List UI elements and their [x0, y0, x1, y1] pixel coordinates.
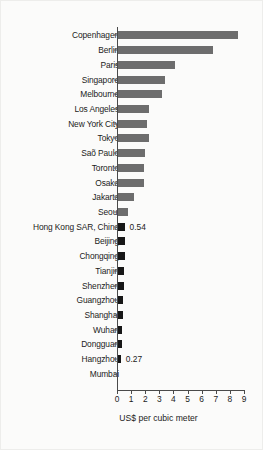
bar-value-label: 0.27 — [126, 355, 142, 363]
bar-row: Melbourne — [1, 87, 263, 102]
bar-row: Toronto — [1, 160, 263, 175]
bar-row: Dongguan — [1, 337, 263, 352]
chart-figure: CopenhagenBerlinParisSingaporeMelbourneL… — [0, 0, 263, 450]
bar — [118, 355, 122, 363]
bar — [118, 164, 145, 172]
bar-row: Chongqing — [1, 249, 263, 264]
bar-row: Beijing — [1, 234, 263, 249]
bar — [118, 311, 123, 319]
bar-row: Hangzhou0.27 — [1, 352, 263, 367]
x-axis-line — [117, 390, 244, 391]
x-axis-tick-label: 6 — [199, 395, 204, 403]
bar-row: Saõ Paulo — [1, 146, 263, 161]
bar-row: Singapore — [1, 72, 263, 87]
bar — [118, 61, 176, 69]
bar — [118, 296, 123, 304]
category-label: Hong Kong SAR, China — [33, 223, 119, 231]
bar — [118, 223, 126, 231]
x-axis-tick-label: 4 — [171, 395, 176, 403]
bar-value-label: 0.54 — [130, 223, 146, 231]
x-axis-tick-label: 8 — [228, 395, 233, 403]
bar-row: Mumbai — [1, 367, 263, 382]
bar — [118, 193, 134, 201]
bar-row: Copenhagen — [1, 28, 263, 43]
bar — [118, 46, 214, 54]
x-axis-tick-label: 2 — [143, 395, 148, 403]
bar — [118, 179, 145, 187]
bar — [118, 31, 239, 39]
bar-row: Jakarta — [1, 190, 263, 205]
bar-row: Seoul — [1, 205, 263, 220]
bar — [118, 340, 123, 348]
bar-row: Berlin — [1, 43, 263, 58]
bar-row: Shenzhen — [1, 278, 263, 293]
category-label: Copenhagen — [72, 31, 119, 39]
bar — [118, 149, 146, 157]
bar-row: Guangzhou — [1, 293, 263, 308]
x-axis-tick-label: 0 — [115, 395, 120, 403]
category-label: New York City — [68, 119, 119, 127]
bar — [118, 208, 129, 216]
bar — [118, 134, 149, 142]
bar — [118, 282, 124, 290]
bar — [118, 76, 166, 84]
bar-row: Paris — [1, 57, 263, 72]
bar — [118, 267, 125, 275]
bar — [118, 90, 162, 98]
y-axis-line — [117, 27, 118, 390]
bar — [118, 105, 149, 113]
x-axis-tick-label: 1 — [129, 395, 134, 403]
bar-row: Osaka — [1, 175, 263, 190]
bar-row: New York City — [1, 116, 263, 131]
bar-row: Tianjin — [1, 264, 263, 279]
x-axis-tick-label: 3 — [157, 395, 162, 403]
bar-row: Shanghai — [1, 308, 263, 323]
x-axis-tick-label: 5 — [185, 395, 190, 403]
bar — [118, 326, 123, 334]
x-axis-title: US$ per cubic meter — [1, 414, 263, 423]
bar-row: Wuhan — [1, 322, 263, 337]
bar-row: Hong Kong SAR, China0.54 — [1, 219, 263, 234]
category-label: Guangzhou — [77, 296, 119, 304]
x-axis-tick-label: 9 — [242, 395, 247, 403]
category-label: Los Angeles — [74, 105, 119, 113]
x-axis-tick-label: 7 — [213, 395, 218, 403]
bar-row: Tokyo — [1, 131, 263, 146]
bar — [118, 237, 125, 245]
chart-plot-area: CopenhagenBerlinParisSingaporeMelbourneL… — [1, 1, 263, 450]
bar — [118, 120, 148, 128]
bar — [118, 252, 125, 260]
bar-row: Los Angeles — [1, 102, 263, 117]
